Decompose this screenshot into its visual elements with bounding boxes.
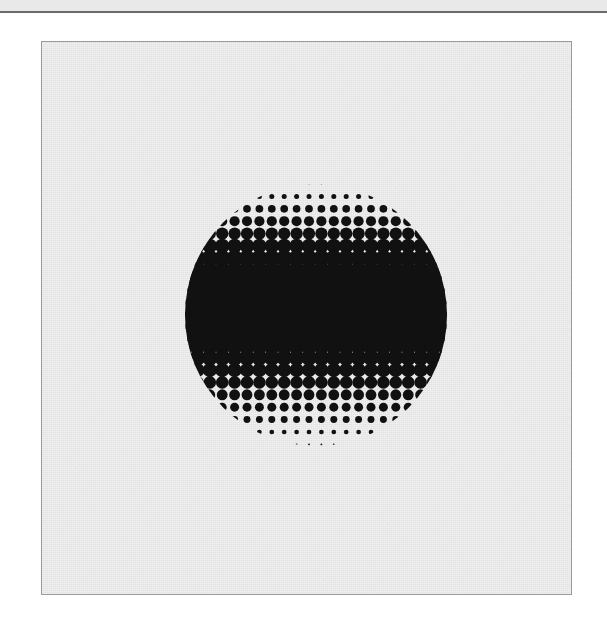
halftone-dot bbox=[379, 403, 388, 412]
halftone-dot bbox=[243, 205, 251, 213]
artwork-panel bbox=[41, 41, 572, 595]
halftone-dot bbox=[241, 376, 254, 389]
halftone-dot bbox=[345, 443, 347, 445]
halftone-dot bbox=[437, 350, 453, 366]
halftone-dot bbox=[216, 376, 229, 389]
halftone-dot bbox=[426, 363, 440, 377]
halftone-dot bbox=[340, 376, 353, 389]
halftone-dot bbox=[307, 194, 312, 199]
halftone-dot bbox=[290, 227, 302, 239]
halftone-dot bbox=[321, 183, 322, 184]
halftone-dot bbox=[292, 403, 301, 412]
halftone-dot bbox=[271, 443, 273, 445]
halftone-dot bbox=[437, 336, 455, 354]
halftone-dot bbox=[252, 363, 266, 377]
halftone-dot bbox=[316, 216, 326, 226]
halftone-dot bbox=[231, 205, 239, 213]
halftone-dot bbox=[284, 183, 285, 184]
halftone-dot bbox=[389, 376, 402, 389]
halftone-dot bbox=[294, 430, 299, 435]
halftone-dot bbox=[245, 430, 250, 435]
halftone-svg bbox=[42, 42, 572, 595]
halftone-dot bbox=[390, 227, 402, 239]
halftone-dot bbox=[356, 194, 361, 199]
halftone-dot bbox=[304, 389, 315, 400]
halftone-dot bbox=[369, 194, 374, 199]
halftone-dot bbox=[351, 363, 365, 377]
halftone-dot bbox=[306, 416, 313, 423]
halftone-dot bbox=[368, 416, 375, 423]
halftone-dot bbox=[315, 376, 328, 389]
halftone-dot bbox=[358, 183, 359, 184]
halftone-dot bbox=[403, 216, 413, 226]
halftone-dot bbox=[177, 350, 193, 366]
halftone-dot bbox=[241, 227, 253, 239]
halftone-dot bbox=[381, 430, 386, 435]
halftone-dot bbox=[415, 389, 426, 400]
halftone-dot bbox=[280, 205, 288, 213]
halftone-dot bbox=[269, 430, 274, 435]
halftone-dot bbox=[391, 403, 400, 412]
halftone-dot bbox=[254, 216, 264, 226]
halftone-dot bbox=[414, 227, 426, 239]
halftone-dot bbox=[367, 403, 376, 412]
halftone-dot bbox=[377, 376, 390, 389]
halftone-dot bbox=[255, 403, 264, 412]
halftone-dot bbox=[355, 205, 363, 213]
halftone-dot bbox=[367, 205, 375, 213]
halftone-dot bbox=[302, 363, 316, 377]
halftone-dot bbox=[392, 205, 400, 213]
halftone-dot bbox=[240, 363, 254, 377]
halftone-dot bbox=[342, 403, 351, 412]
halftone-dot bbox=[257, 194, 262, 199]
halftone-dot bbox=[277, 363, 291, 377]
halftone-dot bbox=[317, 403, 326, 412]
halftone-dot bbox=[330, 205, 338, 213]
halftone-dot bbox=[327, 363, 341, 377]
halftone-dot bbox=[333, 443, 335, 445]
halftone-dot bbox=[294, 194, 299, 199]
halftone-dot bbox=[230, 216, 240, 226]
halftone-dot bbox=[282, 430, 287, 435]
halftone-dot bbox=[364, 363, 378, 377]
halftone-dot bbox=[242, 389, 253, 400]
halftone-dot bbox=[378, 389, 389, 400]
halftone-dot bbox=[228, 376, 241, 389]
halftone-dot bbox=[414, 376, 427, 389]
halftone-dot bbox=[266, 389, 277, 400]
halftone-dot bbox=[319, 194, 324, 199]
halftone-dot bbox=[293, 416, 300, 423]
halftone-dot bbox=[331, 194, 336, 199]
halftone-dot bbox=[289, 363, 303, 377]
halftone-dot bbox=[191, 376, 204, 389]
halftone-dot bbox=[269, 194, 274, 199]
halftone-dot bbox=[307, 430, 312, 435]
halftone-dot bbox=[278, 227, 290, 239]
halftone-dot bbox=[266, 227, 278, 239]
halftone-dot bbox=[341, 216, 351, 226]
halftone-dot bbox=[391, 216, 401, 226]
halftone-dot bbox=[242, 216, 252, 226]
halftone-dot bbox=[267, 216, 277, 226]
halftone-dot bbox=[402, 376, 415, 389]
halftone-dot bbox=[254, 389, 265, 400]
halftone-dot bbox=[346, 183, 347, 184]
halftone-dot bbox=[305, 205, 313, 213]
decorative-top-band bbox=[0, 0, 607, 11]
halftone-dot bbox=[265, 363, 279, 377]
halftone-dot bbox=[204, 227, 216, 239]
halftone-dot bbox=[217, 389, 228, 400]
halftone-dot bbox=[403, 389, 414, 400]
halftone-dot bbox=[304, 216, 314, 226]
halftone-dot bbox=[366, 389, 377, 400]
halftone-dot bbox=[358, 443, 360, 445]
halftone-dot bbox=[253, 227, 265, 239]
halftone-dot bbox=[256, 416, 263, 423]
halftone-dot bbox=[227, 363, 241, 377]
halftone-dot bbox=[344, 430, 349, 435]
halftone-dot bbox=[319, 430, 324, 435]
halftone-dot bbox=[380, 205, 388, 213]
halftone-dot bbox=[308, 183, 309, 184]
halftone-dot bbox=[308, 443, 310, 445]
halftone-dot bbox=[318, 205, 326, 213]
